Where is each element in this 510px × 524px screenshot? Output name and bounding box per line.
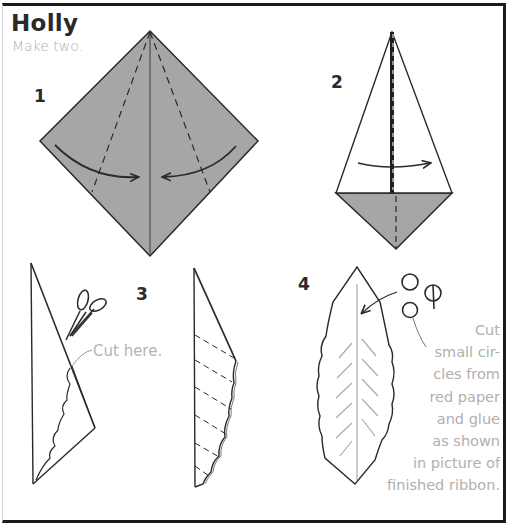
note-line: Cut [340, 319, 500, 341]
step1-diamond-diagram [40, 31, 258, 256]
step3-cut-triangle-diagram [31, 263, 95, 484]
step3-folded-strip-diagram [194, 268, 238, 487]
note-line: finished ribbon. [340, 474, 500, 496]
note-line: red paper [340, 386, 500, 408]
note-line: as shown [340, 430, 500, 452]
step4-instructions: Cut small cir- cles from red paper and g… [340, 319, 500, 497]
note-line: in picture of [340, 452, 500, 474]
step2-kite-diagram [336, 32, 452, 249]
cut-here-label: Cut here. [93, 342, 162, 360]
note-line: cles from [340, 363, 500, 385]
note-line: small cir- [340, 341, 500, 363]
scissors-icon [66, 289, 108, 340]
note-line: and glue [340, 408, 500, 430]
